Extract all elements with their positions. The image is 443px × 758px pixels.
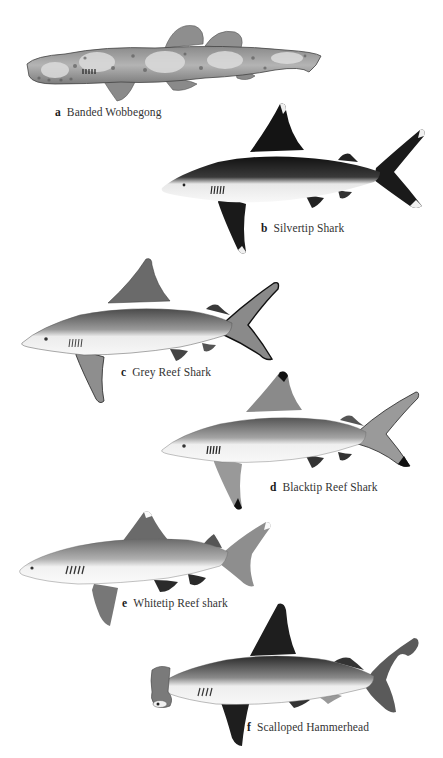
caption-f: fScalloped Hammerhead (247, 721, 369, 733)
caption-letter: d (270, 481, 277, 493)
caption-b: bSilvertip Shark (261, 222, 344, 234)
shark-illustration-plate: aBanded Wobbegong (0, 0, 443, 758)
caption-letter: b (261, 222, 268, 234)
banded-wobbegong-illustration (25, 18, 325, 108)
caption-letter: f (247, 721, 251, 733)
caption-d: dBlacktip Reef Shark (270, 481, 378, 493)
species-name: Banded Wobbegong (67, 106, 162, 118)
caption-a: aBanded Wobbegong (55, 106, 162, 118)
species-name: Silvertip Shark (274, 222, 345, 234)
silvertip-shark-illustration (158, 100, 428, 260)
species-name: Blacktip Reef Shark (283, 481, 378, 493)
caption-letter: c (121, 366, 126, 378)
species-name: Scalloped Hammerhead (257, 721, 369, 733)
caption-letter: a (55, 106, 61, 118)
caption-letter: e (122, 597, 127, 609)
